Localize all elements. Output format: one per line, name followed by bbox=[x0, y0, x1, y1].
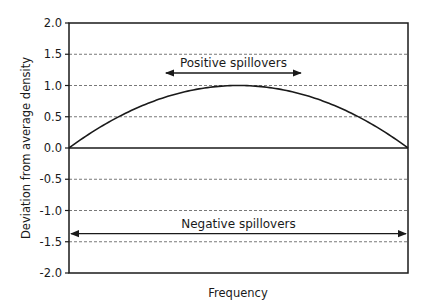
y-tick-label: 0.5 bbox=[44, 110, 62, 124]
y-tick-label: -1.5 bbox=[40, 235, 62, 249]
positive-spillovers-label: Positive spillovers bbox=[180, 56, 287, 70]
y-tick-label: -1.0 bbox=[40, 204, 62, 218]
deviation-curve bbox=[69, 86, 408, 149]
y-tick-label: -2.0 bbox=[40, 266, 62, 280]
curve-path bbox=[69, 86, 408, 149]
chart: 2.01.51.00.50.0-0.5-1.0-1.5-2.0 Positive… bbox=[0, 0, 428, 306]
y-axis-ticks: 2.01.51.00.50.0-0.5-1.0-1.5-2.0 bbox=[40, 16, 69, 280]
y-tick-label: -0.5 bbox=[40, 172, 62, 186]
y-axis-label: Deviation from average density bbox=[19, 57, 33, 239]
y-tick-label: 1.0 bbox=[44, 79, 62, 93]
y-tick-label: 0.0 bbox=[44, 141, 62, 155]
x-axis-label: Frequency bbox=[208, 286, 268, 300]
y-tick-label: 2.0 bbox=[44, 16, 62, 30]
negative-spillovers-label: Negative spillovers bbox=[181, 217, 296, 231]
y-tick-label: 1.5 bbox=[44, 47, 62, 61]
annotations: Positive spilloversNegative spillovers bbox=[71, 56, 406, 234]
gridlines bbox=[69, 54, 408, 242]
